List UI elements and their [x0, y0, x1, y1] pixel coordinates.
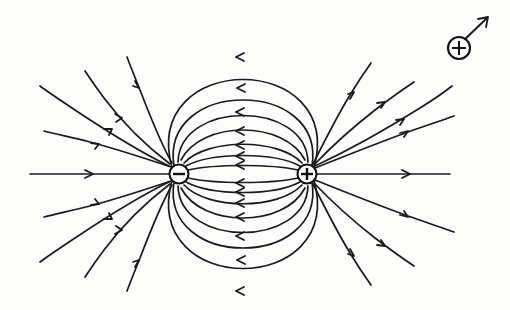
dipole-field-diagram: [0, 0, 510, 310]
field-line-pos-lr-2: [314, 183, 414, 266]
field-diagram-canvas: [0, 0, 510, 310]
positive-charge-field-lines: [313, 63, 454, 285]
dipole-arc-arrow-lower-4: [236, 213, 244, 221]
negative-charge-symbol[interactable]: [170, 165, 189, 184]
dipole-loop-arcs-lower: [169, 178, 318, 295]
dipole-arc-arrow-upper-6: [237, 84, 245, 92]
dipole-arc-arrow-lower-7: [236, 287, 244, 295]
field-line-pos-ur-3: [315, 116, 454, 168]
field-arrow-neg-ul-3: [91, 143, 99, 149]
negative-charge-field-lines: [30, 57, 172, 291]
field-arrow-neg-ll-3: [115, 226, 122, 234]
dipole-arc-arrow-upper-4: [236, 127, 244, 135]
field-arrow-neg-ll-1: [91, 199, 99, 205]
field-line-test-charge-path: [315, 86, 452, 166]
field-line-neg-ul-2: [85, 71, 170, 164]
field-line-pos-ur-1: [314, 82, 414, 165]
dipole-arc-arrow-upper-7: [236, 53, 244, 61]
field-arrow-neg-ul-2: [115, 114, 122, 122]
field-line-neg-ll-3: [85, 184, 170, 277]
field-line-pos-lr-1: [315, 180, 454, 232]
dipole-arc-arrow-lower-6: [237, 256, 245, 264]
dipole-loop-arcs-upper: [169, 53, 318, 170]
test-charge-group[interactable]: [448, 17, 488, 59]
positive-charge-symbol[interactable]: [298, 165, 317, 184]
